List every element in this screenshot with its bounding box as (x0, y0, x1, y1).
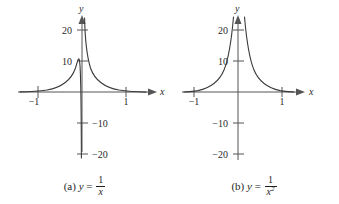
figure-container: x y −1 1 20 10 −10 (0, 0, 339, 204)
y-axis-label-b: y (234, 3, 240, 14)
plot-a-svg: x y −1 1 20 10 −10 (0, 0, 170, 170)
plot-b-svg: x y −1 1 20 10 −10 (170, 0, 339, 170)
curve-b (184, 17, 294, 92)
x-axis-arrow-b (296, 89, 305, 96)
y-tick-label-neg20-b: −20 (212, 149, 228, 160)
x-axis-arrow-a (148, 89, 157, 96)
caption-a-label: (a) (64, 180, 76, 192)
caption-b-lhs: y (247, 180, 252, 192)
caption-a-equals: = (86, 180, 92, 192)
x-tick-label-neg1-b: −1 (189, 96, 200, 107)
plot-panel-a: x y −1 1 20 10 −10 (0, 0, 170, 204)
caption-a: (a) y = 1 x (0, 176, 170, 198)
caption-b: (b) y = 1 x2 (170, 176, 339, 198)
caption-b-denominator-exponent: 2 (271, 184, 275, 192)
caption-b-denominator: x2 (265, 186, 277, 198)
curve-a-branch-negative (20, 59, 81, 158)
y-tick-label-20-b: 20 (218, 25, 228, 36)
caption-b-label: (b) (231, 180, 244, 192)
y-axis-arrow-b (235, 15, 242, 24)
x-tick-label-neg1-a: −1 (29, 96, 40, 107)
y-axis-label-a: y (78, 3, 84, 14)
curve-a-branch-positive (85, 18, 146, 92)
y-tick-label-neg10-b: −10 (212, 118, 228, 129)
curve-b-branch-positive (245, 17, 295, 92)
y-axis-b: y (234, 3, 242, 160)
plot-panel-b: x y −1 1 20 10 −10 (170, 0, 339, 204)
x-ticks-b: −1 1 (189, 87, 285, 107)
x-axis-label-a: x (159, 86, 165, 97)
caption-b-equals: = (255, 180, 261, 192)
curve-a (20, 18, 146, 158)
x-axis-b: x (182, 86, 314, 97)
caption-b-fraction: 1 x2 (265, 175, 277, 197)
y-tick-label-neg20-a: −20 (92, 149, 108, 160)
caption-a-denominator: x (96, 186, 105, 198)
caption-a-fraction: 1 x (96, 175, 105, 197)
y-tick-label-neg10-a: −10 (92, 118, 108, 129)
y-tick-label-20-a: 20 (62, 25, 72, 36)
caption-a-lhs: y (79, 180, 84, 192)
y-tick-label-10-a: 10 (62, 56, 72, 67)
x-tick-label-1-a: 1 (124, 96, 129, 107)
caption-a-numerator: 1 (96, 175, 105, 186)
x-axis-label-b: x (308, 86, 314, 97)
x-tick-label-1-b: 1 (280, 96, 285, 107)
